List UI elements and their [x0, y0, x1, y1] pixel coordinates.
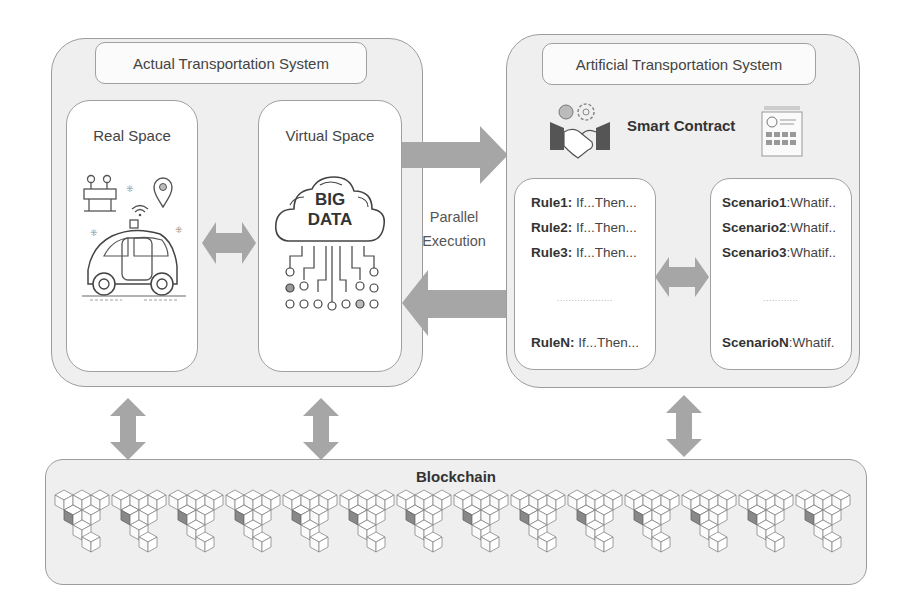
network-nodes-icon: [280, 246, 384, 316]
real-space-title: Real Space: [67, 127, 197, 144]
scenarios-box: Scenario1:Whatif.. Scenario2:Whatif.. Sc…: [710, 178, 852, 370]
scenario-name: Scenario1: [722, 195, 787, 210]
bidirectional-horizontal-arrow: [202, 218, 256, 268]
rule-text: If...Then...: [572, 245, 637, 260]
blockchain-title: Blockchain: [46, 468, 866, 485]
rules-ellipsis: ...................: [515, 295, 655, 302]
scenarios-ellipsis: ............: [711, 295, 851, 302]
rule-text: If...Then...: [572, 195, 637, 210]
scenario-name: Scenario3: [722, 245, 787, 260]
scenario-item: Scenario1:Whatif..: [722, 195, 836, 210]
rules-box: Rule1: If...Then... Rule2: If...Then... …: [514, 178, 656, 370]
parallel-label-line2: Execution: [410, 229, 498, 253]
parallel-label-line1: Parallel: [410, 205, 498, 229]
rule-item: Rule1: If...Then...: [531, 195, 637, 210]
bidirectional-vertical-arrow-real: [110, 398, 146, 460]
bidirectional-horizontal-arrow: [655, 254, 709, 300]
rule-text: If...Then...: [575, 335, 640, 350]
bidirectional-vertical-arrow-virtual: [303, 398, 339, 460]
scenario-item: Scenario3:Whatif..: [722, 245, 836, 260]
rule-name: Rule3:: [531, 245, 572, 260]
actual-system-title: Actual Transportation System: [95, 42, 367, 84]
rule-name: RuleN:: [531, 335, 575, 350]
location-pin-icon: [152, 176, 174, 208]
virtual-space-title: Virtual Space: [259, 127, 401, 144]
rule-item: Rule3: If...Then...: [531, 245, 637, 260]
rule-name: Rule2:: [531, 220, 572, 235]
scenario-text: :Whatif..: [787, 245, 837, 260]
contract-document-icon: [760, 106, 804, 156]
wifi-signal-icon: [130, 203, 150, 217]
arrow-left-to-actual: [402, 270, 508, 336]
big-data-line2: DATA: [300, 210, 360, 230]
rule-item: RuleN: If...Then...: [531, 335, 639, 350]
sparkle-decoration: ⁜: [175, 225, 183, 235]
actual-system-title-text: Actual Transportation System: [133, 55, 329, 72]
artificial-system-title: Artificial Transportation System: [542, 43, 816, 85]
sparkle-decoration: ⁜: [90, 228, 98, 238]
rule-name: Rule1:: [531, 195, 572, 210]
handshake-gears-icon: [548, 98, 612, 160]
scenario-item: ScenarioN:Whatif.: [722, 335, 835, 350]
scenario-text: :Whatif..: [787, 195, 837, 210]
rule-text: If...Then...: [572, 220, 637, 235]
road-barrier-icon: [84, 175, 124, 217]
sparkle-decoration: ⁜: [126, 184, 134, 194]
scenario-item: Scenario2:Whatif..: [722, 220, 836, 235]
smart-contract-title: Smart Contract: [627, 117, 735, 134]
rule-item: Rule2: If...Then...: [531, 220, 637, 235]
scenario-text: :Whatif.: [789, 335, 835, 350]
scenario-name: Scenario2: [722, 220, 787, 235]
scenario-text: :Whatif..: [787, 220, 837, 235]
arrow-right-to-artificial: [402, 126, 508, 184]
artificial-system-title-text: Artificial Transportation System: [576, 56, 783, 73]
bidirectional-vertical-arrow-artificial: [666, 395, 702, 457]
big-data-label: BIG DATA: [300, 190, 360, 230]
scenario-name: ScenarioN: [722, 335, 789, 350]
blockchain-blocks-icon: [55, 488, 855, 556]
big-data-line1: BIG: [300, 190, 360, 210]
parallel-execution-label: Parallel Execution: [410, 205, 498, 253]
